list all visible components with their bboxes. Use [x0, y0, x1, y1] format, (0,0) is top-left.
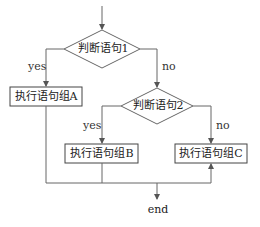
d2-yes-connector [102, 106, 121, 143]
blockA-label: 执行语句组A [15, 91, 78, 103]
blockC-label: 执行语句组C [179, 148, 242, 160]
d2-yes-label: yes [83, 120, 101, 132]
flowchart-canvas [0, 0, 260, 227]
d2-no-label: no [216, 120, 230, 132]
end-label: end [148, 204, 169, 216]
d1-yes-label: yes [28, 61, 46, 73]
decision1-label: 判断语句1 [78, 43, 129, 55]
d1-no-connector [140, 49, 157, 87]
decision2-label: 判断语句2 [133, 100, 184, 112]
blockB-label: 执行语句组B [70, 148, 133, 160]
d1-no-label: no [162, 61, 176, 73]
d2-no-connector [193, 106, 211, 143]
d1-yes-connector [46, 49, 64, 86]
